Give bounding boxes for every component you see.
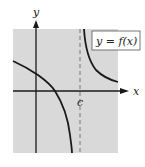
x-axis-label: x (133, 85, 140, 98)
x-axis-arrow-icon (120, 88, 129, 94)
legend-label: y = f(x) (95, 35, 137, 48)
y-axis-label: y (32, 6, 40, 19)
asymptote-label: c (77, 96, 83, 109)
y-axis-arrow-icon (33, 20, 39, 28)
chart-svg: y x c y = f(x) (0, 0, 145, 167)
